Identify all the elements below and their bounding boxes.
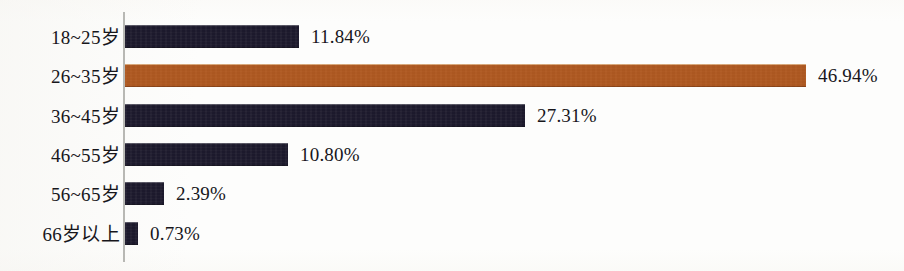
category-label-0: 18~25岁	[0, 17, 120, 57]
bar-3	[125, 143, 288, 166]
value-label-2: 27.31%	[537, 106, 597, 125]
category-label-4: 56~65岁	[0, 174, 120, 214]
bar-row-4: 56~65岁 2.39%	[0, 174, 904, 214]
bar-row-1: 26~35岁 46.94%	[0, 56, 904, 96]
bar-row-2: 36~45岁 27.31%	[0, 96, 904, 136]
category-label-3: 46~55岁	[0, 135, 120, 175]
bar-group-1: 46.94%	[125, 64, 878, 87]
age-distribution-bar-chart: 18~25岁 11.84% 26~35岁 46.94% 36~45岁 27.31…	[0, 0, 904, 271]
category-label-1: 26~35岁	[0, 56, 120, 96]
value-label-0: 11.84%	[311, 27, 370, 46]
bar-group-0: 11.84%	[125, 25, 370, 48]
bar-group-5: 0.73%	[125, 222, 200, 245]
value-label-1: 46.94%	[818, 66, 878, 85]
bar-row-0: 18~25岁 11.84%	[0, 17, 904, 57]
category-label-5: 66岁以上	[0, 214, 120, 254]
bar-row-3: 46~55岁 10.80%	[0, 135, 904, 175]
value-label-3: 10.80%	[300, 145, 360, 164]
bar-group-4: 2.39%	[125, 182, 226, 205]
bar-group-2: 27.31%	[125, 104, 597, 127]
value-label-4: 2.39%	[176, 184, 226, 203]
bar-row-5: 66岁以上 0.73%	[0, 214, 904, 254]
bar-4	[125, 182, 164, 205]
bar-group-3: 10.80%	[125, 143, 360, 166]
category-label-2: 36~45岁	[0, 96, 120, 136]
value-label-5: 0.73%	[150, 224, 200, 243]
bar-2	[125, 104, 525, 127]
bar-0	[125, 25, 299, 48]
bar-5	[125, 222, 138, 245]
bar-1	[125, 64, 806, 87]
